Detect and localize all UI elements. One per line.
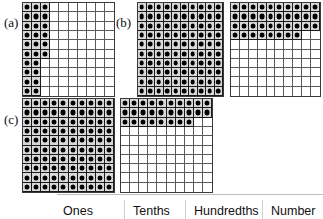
grid-cell-filled [189,59,198,68]
grid-cell-empty [240,68,249,77]
grid-cell-filled [231,22,240,31]
grid-cell-empty [78,31,87,40]
grid-cell-filled [23,77,32,86]
grid-cell-empty [185,183,194,192]
grid-cell-filled [194,99,203,108]
grid-cell-empty [185,146,194,155]
grid-cell-filled [155,77,164,86]
grid-cell-filled [41,31,50,40]
grid-cell-empty [121,164,130,173]
grid-cell-filled [41,183,50,192]
grid-cell-filled [155,3,164,12]
grid-cell-empty [167,183,176,192]
grid-cell-filled [23,155,32,164]
grid-cell-empty [59,59,68,68]
grid-cell-filled [32,183,41,192]
grid-cell-empty [139,127,148,136]
grid-cell-empty [87,12,96,21]
grid-cell-filled [32,99,41,108]
table-header-row: Ones Tenths Hundredths Number [57,200,323,219]
grid-cell-filled [138,3,147,12]
grid-cell-empty [176,173,185,182]
grid-cell-filled [167,118,176,127]
grid-cell-filled [198,59,207,68]
grid-cell-filled [41,40,50,49]
grid-cell-empty [203,155,212,164]
grid-cell-filled [147,12,156,21]
grid-cell-filled [78,108,87,117]
grid-cell-empty [105,22,114,31]
grid-cell-empty [69,12,78,21]
grid-cell-filled [87,155,96,164]
grid-cell-filled [206,68,215,77]
grid-cell-empty [121,136,130,145]
grid-cell-empty [240,59,249,68]
table-header-tenths: Tenths [124,200,185,219]
grid-cell-filled [198,31,207,40]
grid-cell-empty [267,40,276,49]
grid-cell-empty [59,68,68,77]
grid-cell-empty [41,68,50,77]
grid-cell-filled [69,127,78,136]
grid-cell-empty [148,127,157,136]
grid-cell-filled [50,164,59,173]
grid-cell-empty [121,183,130,192]
grid-cell-filled [311,22,320,31]
grid-cell-filled [302,3,311,12]
grid-cell-filled [147,40,156,49]
grid-cell-empty [69,31,78,40]
table-header-hundredths: Hundredths [185,200,262,219]
grid-cell-empty [78,3,87,12]
grid-cell-empty [311,59,320,68]
grid-cell-filled [164,22,173,31]
grid-cell-filled [105,99,114,108]
grid-cell-filled [275,31,284,40]
grid-cell-empty [157,164,166,173]
grid-cell-empty [157,155,166,164]
grid-cell-empty [293,77,302,86]
grid-cell-empty [130,183,139,192]
grid-cell-empty [167,164,176,173]
grid-cell-filled [121,108,130,117]
grid-cell-filled [147,68,156,77]
grid-cell-filled [121,118,130,127]
grid-cell-empty [275,87,284,96]
grid-cell-empty [203,164,212,173]
grid-cell-filled [164,3,173,12]
grid-cell-empty [69,59,78,68]
grid-cell-filled [198,68,207,77]
grid-cell-empty [50,31,59,40]
grid-cell-filled [240,12,249,21]
grid-cell-filled [105,146,114,155]
grid-cell-filled [164,12,173,21]
grid-cell-filled [96,118,105,127]
grid-cell-filled [147,3,156,12]
grid-cell-filled [138,31,147,40]
grid-cell-empty [194,136,203,145]
grid-cell-filled [78,164,87,173]
grid-cell-filled [130,108,139,117]
grid-cell-empty [293,87,302,96]
grid-cell-filled [215,22,224,31]
grid-cell-empty [231,87,240,96]
grid-cell-empty [105,68,114,77]
grid-cell-filled [32,50,41,59]
grid-cell-empty [249,50,258,59]
grid-cell-empty [185,136,194,145]
grid-cell-filled [147,77,156,86]
grid-cell-empty [249,59,258,68]
grid-cell-filled [41,108,50,117]
grid-cell-empty [231,77,240,86]
grid-cell-empty [203,146,212,155]
grid-cell-filled [172,40,181,49]
grid-cell-filled [181,50,190,59]
grid-cell-filled [164,50,173,59]
grid-cell-filled [50,99,59,108]
grid-cell-empty [78,68,87,77]
grid-cell-filled [105,118,114,127]
grid-cell-filled [138,59,147,68]
grid-cell-filled [155,50,164,59]
grid-cell-empty [148,173,157,182]
grid-cell-filled [41,3,50,12]
grid-cell-filled [206,50,215,59]
